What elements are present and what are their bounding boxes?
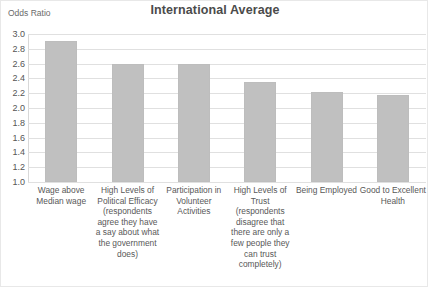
gridline	[28, 34, 426, 35]
bar[interactable]	[311, 92, 343, 182]
bar[interactable]	[377, 95, 409, 182]
gridline	[28, 78, 426, 79]
gridline	[28, 49, 426, 50]
gridline	[28, 138, 426, 139]
gridline	[28, 167, 426, 168]
bar[interactable]	[112, 64, 144, 182]
y-axis-tick-label: 2.4	[3, 73, 25, 83]
x-axis-category-label: High Levels of Trust (respondents disagr…	[227, 185, 293, 270]
gridline	[28, 152, 426, 153]
chart-container: International Average Odds Ratio 3.02.82…	[0, 0, 428, 287]
y-axis-tick-label: 3.0	[3, 29, 25, 39]
y-axis-tick-label: 1.2	[3, 162, 25, 172]
plot-area	[28, 34, 426, 182]
x-axis-category-label: Wage above Median wage	[28, 185, 94, 206]
y-axis-tick-label: 1.8	[3, 118, 25, 128]
x-axis-category-label: Being Employed	[293, 185, 359, 196]
y-axis-tick-label: 1.4	[3, 147, 25, 157]
chart-title: International Average	[1, 3, 428, 17]
bar[interactable]	[178, 64, 210, 182]
y-axis-title: Odds Ratio	[8, 8, 51, 18]
gridline	[28, 182, 426, 183]
x-axis-category-label: High Levels of Political Efficacy (respo…	[94, 185, 160, 259]
y-axis-tick-label: 2.0	[3, 103, 25, 113]
y-axis-tick-labels: 3.02.82.62.42.22.01.81.61.41.21.0	[1, 34, 25, 183]
gridline	[28, 64, 426, 65]
y-axis-tick-label: 2.8	[3, 44, 25, 54]
x-axis-category-label: Good to Excellent Health	[360, 185, 426, 206]
gridline	[28, 123, 426, 124]
x-axis-category-labels: Wage above Median wageHigh Levels of Pol…	[28, 185, 426, 287]
bar[interactable]	[244, 82, 276, 182]
gridline	[28, 108, 426, 109]
gridline	[28, 93, 426, 94]
y-axis-tick-label: 2.2	[3, 88, 25, 98]
y-axis-tick-label: 1.0	[3, 177, 25, 187]
y-axis-tick-label: 2.6	[3, 59, 25, 69]
x-axis-category-label: Participation in Volunteer Activities	[161, 185, 227, 217]
bar[interactable]	[45, 41, 77, 182]
y-axis-tick-label: 1.6	[3, 133, 25, 143]
